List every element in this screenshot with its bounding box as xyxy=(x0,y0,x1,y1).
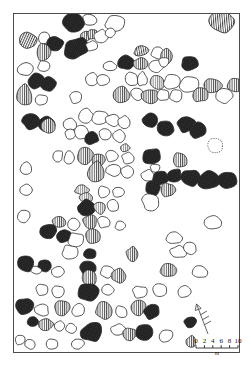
clast-open-outline-clast xyxy=(62,245,78,259)
clast-dark-crosshatched-clast xyxy=(156,119,176,138)
clast-open-outline-clast xyxy=(122,152,134,164)
clast-open-outline-clast xyxy=(17,210,30,222)
clast-dark-crosshatched-clast xyxy=(216,171,238,190)
clast-open-outline-clast xyxy=(107,199,118,211)
clast-open-outline-clast xyxy=(52,266,65,277)
clast-open-outline-clast xyxy=(66,323,77,333)
scale-tick-4: 4 xyxy=(211,337,215,345)
clast-open-outline-clast xyxy=(72,339,85,349)
clast-open-outline-clast xyxy=(68,233,83,247)
clast-dark-crosshatched-clast xyxy=(116,53,136,71)
clast-open-outline-clast xyxy=(65,129,76,139)
clast-open-outline-clast xyxy=(102,284,114,295)
clast-open-outline-clast xyxy=(86,73,99,86)
scale-tick-0: 0 xyxy=(194,337,198,345)
clast-open-outline-clast xyxy=(125,72,137,85)
clast-light-gray-clast xyxy=(121,144,131,152)
clast-open-outline-clast xyxy=(68,218,80,230)
clast-open-outline-clast xyxy=(16,61,34,77)
clast-dark-crosshatched-clast xyxy=(84,249,96,259)
clast-open-outline-clast xyxy=(34,304,48,316)
clast-open-outline-clast xyxy=(79,108,94,123)
scale-tick-10: 10 xyxy=(235,337,243,345)
clast-dark-crosshatched-clast xyxy=(14,296,35,315)
clast-vertical-hatched-clast xyxy=(17,84,32,105)
clast-open-outline-clast xyxy=(204,216,221,229)
north-arrow xyxy=(195,304,211,334)
clast-open-outline-clast xyxy=(118,116,130,129)
clast-dark-crosshatched-clast xyxy=(141,147,162,166)
scale-tick-2: 2 xyxy=(203,337,207,345)
clast-open-outline-clast xyxy=(157,90,169,101)
clast-light-gray-clast xyxy=(94,202,106,214)
clast-dark-crosshatched-clast xyxy=(76,281,101,303)
clast-open-outline-clast xyxy=(38,61,50,72)
clast-open-outline-clast xyxy=(115,221,125,230)
clast-vertical-hatched-clast xyxy=(83,215,97,230)
scale-tick-8: 8 xyxy=(228,337,232,345)
clast-vertical-hatched-clast xyxy=(133,57,148,69)
scale-bar: 0 2 4 6 8 10 m xyxy=(194,337,242,356)
clast-vertical-hatched-clast xyxy=(126,246,138,261)
clast-open-outline-clast xyxy=(106,164,121,176)
clast-open-outline-clast xyxy=(170,90,182,102)
clast-open-outline-clast xyxy=(216,89,233,104)
clast-open-outline-clast xyxy=(121,166,134,178)
clast-dark-crosshatched-clast xyxy=(180,55,199,72)
scale-tick-6: 6 xyxy=(219,337,223,345)
clast-open-outline-clast xyxy=(178,286,191,298)
clast-open-outline-clast xyxy=(97,75,110,86)
clast-open-outline-clast xyxy=(64,151,74,164)
clast-layer xyxy=(14,10,243,349)
clast-open-outline-clast xyxy=(103,61,116,70)
clast-open-outline-clast xyxy=(72,303,85,316)
clast-open-outline-clast xyxy=(105,28,115,38)
clast-vertical-hatched-clast xyxy=(113,86,130,102)
clast-open-outline-clast xyxy=(86,41,98,51)
clast-vertical-hatched-clast xyxy=(160,263,177,276)
clast-open-outline-clast xyxy=(46,339,57,349)
clast-open-outline-clast xyxy=(113,130,125,143)
clast-open-outline-clast xyxy=(36,284,48,295)
clast-open-outline-clast xyxy=(192,266,207,278)
clast-open-outline-clast xyxy=(166,232,183,244)
clast-open-outline-clast xyxy=(54,321,64,331)
clast-open-outline-clast xyxy=(98,216,110,227)
clast-vertical-hatched-clast xyxy=(17,30,39,51)
map-canvas: 0 2 4 6 8 10 m xyxy=(0,0,251,366)
clast-open-outline-clast xyxy=(116,306,127,318)
clast-dark-crosshatched-clast xyxy=(134,323,154,342)
clast-dark-crosshatched-clast xyxy=(27,317,38,327)
clast-open-outline-clast xyxy=(137,71,147,85)
clast-vertical-hatched-clast xyxy=(38,319,53,331)
clast-vertical-hatched-clast xyxy=(131,300,146,316)
clast-open-outline-clast xyxy=(105,114,119,126)
clast-open-outline-clast xyxy=(106,150,118,161)
clast-open-outline-clast xyxy=(98,186,109,198)
clast-vertical-hatched-clast xyxy=(82,270,96,286)
clast-open-outline-clast xyxy=(150,164,160,172)
clast-open-outline-clast xyxy=(20,162,31,175)
clast-vertical-hatched-clast xyxy=(86,229,101,244)
clast-open-outline-clast xyxy=(63,118,76,130)
clast-open-outline-clast xyxy=(25,339,35,349)
clast-open-outline-clast xyxy=(113,187,125,197)
clast-open-outline-clast xyxy=(15,335,25,345)
clast-light-gray-clast xyxy=(150,76,164,90)
clast-open-outline-clast xyxy=(159,330,173,342)
clast-vertical-hatched-clast xyxy=(161,183,176,197)
clast-dotted-outline-clast xyxy=(208,138,223,152)
clast-vertical-hatched-clast xyxy=(55,301,70,316)
clast-vertical-hatched-clast xyxy=(123,328,137,341)
clast-vertical-hatched-clast xyxy=(193,88,208,102)
clast-open-outline-clast xyxy=(153,284,167,297)
clast-vertical-hatched-clast xyxy=(96,302,112,320)
clast-open-outline-clast xyxy=(53,151,63,162)
clast-open-outline-clast xyxy=(70,92,82,104)
clast-vertical-hatched-clast xyxy=(173,153,187,167)
clast-open-outline-clast xyxy=(142,194,159,211)
clast-open-outline-clast xyxy=(35,95,47,105)
clast-dark-crosshatched-clast xyxy=(141,112,159,130)
clast-open-outline-clast xyxy=(20,184,33,195)
clast-distribution-map: 0 2 4 6 8 10 m xyxy=(0,0,251,366)
